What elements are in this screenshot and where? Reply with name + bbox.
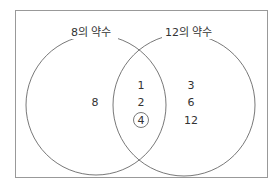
element-4: 4	[138, 114, 145, 127]
set-label-12: 12의 약수	[165, 25, 213, 39]
element-2: 2	[138, 96, 145, 109]
universal-set-box	[16, 11, 268, 178]
venn-diagram: 8의 약수 12의 약수 8 1 2 4 3 6 12	[0, 0, 274, 185]
set-circle-12	[113, 34, 255, 176]
element-3: 3	[188, 79, 195, 92]
element-6: 6	[188, 96, 195, 109]
element-8: 8	[92, 96, 99, 109]
element-12: 12	[184, 114, 198, 127]
set-label-8: 8의 약수	[71, 25, 112, 39]
element-1: 1	[138, 79, 145, 92]
